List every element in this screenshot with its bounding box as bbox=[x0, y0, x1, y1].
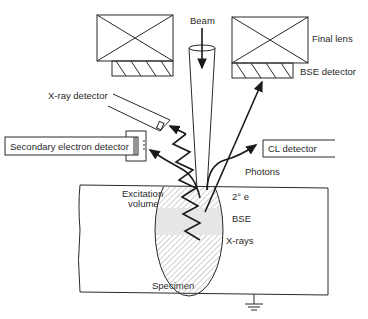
secondary-electron-detector-label: Secondary electron detector bbox=[10, 141, 129, 152]
bse-detector-right bbox=[232, 63, 293, 78]
bse-detector-left bbox=[112, 61, 173, 76]
bse-label: BSE bbox=[232, 213, 251, 224]
excitation-volume-label-2: volume bbox=[128, 198, 159, 209]
final-lens-right bbox=[232, 17, 308, 63]
final-lens-left bbox=[97, 15, 173, 61]
sem-signal-diagram: Final lens BSE detector Beam X-ray detec… bbox=[0, 0, 368, 319]
xray-arrow-icon bbox=[170, 126, 186, 134]
bse-detector-label: BSE detector bbox=[300, 66, 356, 77]
final-lens-label: Final lens bbox=[312, 33, 353, 44]
cl-detector-label: CL detector bbox=[268, 143, 317, 154]
xrays-label: X-rays bbox=[226, 235, 254, 246]
xray-detector-label: X-ray detector bbox=[48, 90, 108, 101]
beam-label: Beam bbox=[190, 15, 215, 26]
photons-label: Photons bbox=[245, 166, 280, 177]
ground-symbol-icon bbox=[245, 294, 263, 310]
secondary-electrons-label: 2° e bbox=[232, 191, 249, 202]
xray-detector bbox=[108, 94, 170, 131]
